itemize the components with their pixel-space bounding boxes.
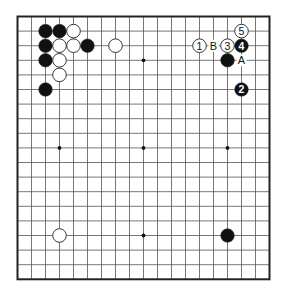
white-stone xyxy=(67,39,81,53)
black-stone xyxy=(39,39,53,53)
star-point xyxy=(58,146,62,150)
black-stone xyxy=(81,39,95,53)
black-stone xyxy=(221,229,235,243)
white-stone xyxy=(53,54,67,68)
white-stone xyxy=(53,68,67,82)
black-stone xyxy=(53,24,67,38)
black-stone: 4 xyxy=(235,39,249,53)
black-stone xyxy=(39,54,53,68)
move-number-label: 5 xyxy=(239,25,245,37)
black-stone xyxy=(221,54,235,68)
white-stone: 1 xyxy=(193,39,207,53)
white-stone: 3 xyxy=(221,39,235,53)
white-stone xyxy=(109,39,123,53)
go-board: 51342 BA xyxy=(0,0,282,303)
white-stone xyxy=(53,229,67,243)
move-number-label: 4 xyxy=(239,40,245,52)
white-stone: 5 xyxy=(235,24,249,38)
black-stone xyxy=(39,83,53,97)
black-stone xyxy=(39,24,53,38)
black-stone: 2 xyxy=(235,83,249,97)
white-stone xyxy=(53,39,67,53)
star-point xyxy=(142,234,146,238)
move-number-label: 1 xyxy=(197,40,203,52)
star-point xyxy=(142,146,146,150)
point-marker-label: A xyxy=(238,54,246,66)
white-stone xyxy=(67,24,81,38)
move-number-label: 2 xyxy=(239,83,245,95)
star-point xyxy=(226,146,230,150)
move-number-label: 3 xyxy=(225,40,231,52)
star-point xyxy=(142,58,146,62)
point-marker-label: B xyxy=(210,40,217,52)
